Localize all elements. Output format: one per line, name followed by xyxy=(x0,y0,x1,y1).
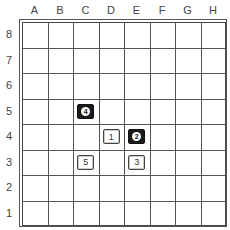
stone-white-c3: 5 xyxy=(77,155,94,170)
move-number: 1 xyxy=(109,132,114,142)
stone-white-d4: 1 xyxy=(103,129,120,144)
row-label-7: 7 xyxy=(3,54,15,66)
column-label-a: A xyxy=(22,4,47,16)
move-number: 4 xyxy=(81,107,90,116)
grid-line-vertical xyxy=(201,22,202,226)
stone-black-e4: 2 xyxy=(128,129,145,144)
grid-line-horizontal xyxy=(22,124,226,125)
move-number: 5 xyxy=(83,157,88,167)
column-label-f: F xyxy=(150,4,175,16)
column-label-b: B xyxy=(48,4,73,16)
move-number: 3 xyxy=(134,157,139,167)
grid-line-horizontal xyxy=(22,150,226,151)
row-label-8: 8 xyxy=(3,28,15,40)
move-number: 2 xyxy=(132,132,141,141)
stone-white-e3: 3 xyxy=(128,155,145,170)
grid-line-vertical xyxy=(150,22,151,226)
row-label-6: 6 xyxy=(3,79,15,91)
grid-line-horizontal xyxy=(22,201,226,202)
row-label-1: 1 xyxy=(3,207,15,219)
column-label-d: D xyxy=(99,4,124,16)
stone-black-c5: 4 xyxy=(77,104,94,119)
row-label-3: 3 xyxy=(3,156,15,168)
column-label-e: E xyxy=(124,4,149,16)
row-label-4: 4 xyxy=(3,130,15,142)
row-label-2: 2 xyxy=(3,181,15,193)
row-label-5: 5 xyxy=(3,105,15,117)
column-label-g: G xyxy=(175,4,200,16)
grid-line-vertical xyxy=(175,22,176,226)
column-label-c: C xyxy=(73,4,98,16)
column-label-h: H xyxy=(201,4,226,16)
grid-line-horizontal xyxy=(22,175,226,176)
